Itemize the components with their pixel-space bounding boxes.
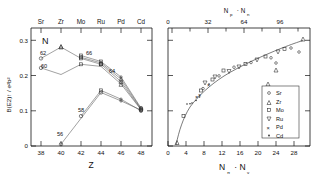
y-tick-label-3: 0.3 xyxy=(19,37,28,44)
left-panel-markers xyxy=(39,45,142,146)
annotation-58: 58 xyxy=(78,107,84,113)
x-tick-label-8: 8 xyxy=(202,149,206,156)
x-tick-label-38: 38 xyxy=(38,149,45,156)
top-tick-label-0: 0 xyxy=(166,18,170,25)
top-tick-label-96: 96 xyxy=(277,18,284,25)
data-point xyxy=(290,47,293,50)
data-point xyxy=(283,48,286,51)
element-label-cd: Cd xyxy=(137,18,146,25)
data-point xyxy=(227,70,231,74)
right-panel-top-axis-title: N p · N n xyxy=(224,7,250,17)
element-label-sr: Sr xyxy=(38,18,44,25)
x-axis-title-mid: · N xyxy=(234,162,245,172)
x-tick-label-0: 0 xyxy=(166,149,170,156)
data-point xyxy=(199,96,201,98)
element-label-pd: Pd xyxy=(117,18,125,25)
right-panel-x-tick-labels: 0 4 8 12 16 20 24 28 xyxy=(166,149,298,156)
x-axis-title: Z xyxy=(88,160,93,170)
x-axis-title-sub-pi: π xyxy=(227,170,230,175)
data-point xyxy=(211,78,214,81)
figure-container: Sr Zr Mo Ru Pd Cd 0 0.1 0.2 xyxy=(0,0,324,186)
data-point xyxy=(175,141,179,145)
y-tick-label-2: 0.2 xyxy=(19,72,28,79)
data-point xyxy=(79,114,82,117)
data-point xyxy=(274,68,278,72)
legend: Sr Zr Mo Ru × Pd Cd xyxy=(262,86,299,139)
data-point xyxy=(208,83,210,85)
top-tick-label-32: 32 xyxy=(205,18,212,25)
x-tick-label-24: 24 xyxy=(273,149,280,156)
legend-label-mo: Mo xyxy=(276,107,284,113)
legend-label-sr: Sr xyxy=(276,90,282,96)
chart-svg: Sr Zr Mo Ru Pd Cd 0 0.1 0.2 xyxy=(0,0,324,186)
left-panel-x-tick-labels: 38 40 42 44 46 48 xyxy=(38,149,145,156)
series-line-n62 xyxy=(41,47,141,109)
x-axis-title-main: N xyxy=(219,162,225,172)
x-tick-label-16: 16 xyxy=(237,149,244,156)
data-point xyxy=(301,37,305,41)
legend-label-cd: Cd xyxy=(276,133,283,139)
data-point xyxy=(275,62,278,65)
data-point xyxy=(202,87,205,90)
right-panel-x-ticks xyxy=(168,141,294,146)
data-point xyxy=(222,69,225,72)
data-point xyxy=(276,50,280,54)
left-panel-y-tick-labels: 0 0.1 0.2 0.3 xyxy=(19,37,28,150)
series-line-n56 xyxy=(61,93,141,145)
element-label-ru: Ru xyxy=(97,18,106,25)
left-panel: Sr Zr Mo Ru Pd Cd 0 0.1 0.2 xyxy=(5,18,152,170)
legend-label-pd: Pd xyxy=(276,124,283,130)
top-axis-title-sub-n: n xyxy=(247,12,250,17)
right-panel-top-tick-labels: 0 32 64 96 xyxy=(166,18,284,25)
data-point xyxy=(186,103,188,105)
data-point xyxy=(266,82,270,86)
left-panel-top-ticks xyxy=(41,28,141,33)
data-point xyxy=(270,57,273,60)
x-tick-label-44: 44 xyxy=(98,149,105,156)
annotation-60: 60 xyxy=(41,63,47,69)
top-axis-title-sub-p: p xyxy=(230,12,233,17)
data-point xyxy=(298,51,301,54)
x-tick-label-46: 46 xyxy=(118,149,125,156)
legend-marker-dot-cd xyxy=(268,135,270,137)
top-axis-title-mid: · N xyxy=(237,7,246,14)
x-tick-label-28: 28 xyxy=(291,149,298,156)
top-tick-label-64: 64 xyxy=(241,18,248,25)
x-tick-label-12: 12 xyxy=(219,149,226,156)
y-tick-label-0: 0 xyxy=(25,142,29,149)
data-point xyxy=(218,75,221,78)
left-panel-y-ticks xyxy=(31,40,152,146)
right-panel: 0 32 64 96 N p · N n xyxy=(166,7,310,175)
annotation-64: 64 xyxy=(109,68,115,74)
x-tick-label-48: 48 xyxy=(138,149,145,156)
top-axis-title-main: N xyxy=(224,7,229,14)
left-panel-element-labels: Sr Zr Mo Ru Pd Cd xyxy=(38,18,146,25)
annotation-56: 56 xyxy=(57,131,63,137)
x-tick-label-42: 42 xyxy=(78,149,85,156)
right-panel-top-ticks xyxy=(172,28,298,33)
left-panel-x-ticks xyxy=(41,141,141,146)
left-panel-series-lines xyxy=(41,47,141,144)
data-point xyxy=(233,66,236,69)
series-line-n66 xyxy=(81,56,141,109)
data-point-cross: × xyxy=(207,82,210,88)
annotation-66: 66 xyxy=(86,50,92,56)
x-tick-label-40: 40 xyxy=(58,149,65,156)
element-label-zr: Zr xyxy=(58,18,64,25)
x-tick-label-20: 20 xyxy=(255,149,262,156)
data-point xyxy=(191,102,193,104)
y-axis-title: B(E2)↑ / e²b² xyxy=(5,77,12,112)
y-tick-label-1: 0.1 xyxy=(19,107,28,114)
right-panel-x-axis-title: N π · N ν xyxy=(219,162,250,175)
x-axis-title-sub-nu: ν xyxy=(247,170,250,175)
annotation-62: 62 xyxy=(40,50,46,56)
data-point xyxy=(195,100,197,102)
element-label-mo: Mo xyxy=(77,18,86,25)
data-point xyxy=(213,75,217,79)
left-panel-axes xyxy=(31,28,152,146)
x-tick-label-4: 4 xyxy=(184,149,188,156)
legend-label-ru: Ru xyxy=(276,116,283,122)
corner-label-n: N xyxy=(42,36,49,46)
legend-label-zr: Zr xyxy=(276,99,281,105)
legend-marker-cross-pd: × xyxy=(267,125,270,131)
